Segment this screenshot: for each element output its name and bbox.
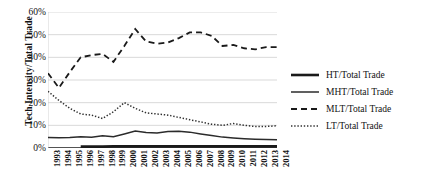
legend-line-swatch-icon <box>290 69 320 81</box>
x-tick-label: 2006 <box>194 150 204 190</box>
series-line-mht <box>48 131 277 140</box>
legend-item-label: HT/Total Trade <box>326 70 385 80</box>
x-axis-tick-labels: 1993199419951996199719981999200020012002… <box>48 150 277 193</box>
x-tick-label: 1998 <box>107 150 117 190</box>
legend-item[interactable]: HT/Total Trade <box>290 66 428 83</box>
x-tick-label: 2004 <box>172 150 182 190</box>
legend-line-swatch-icon <box>290 103 320 115</box>
plot-svg <box>48 12 277 148</box>
y-tick-label: 50% <box>14 30 46 40</box>
y-tick-label: 40% <box>14 52 46 62</box>
series-line-lt <box>48 91 277 126</box>
plot-area <box>48 12 277 148</box>
chart-legend: HT/Total TradeMHT/Total TradeMLT/Total T… <box>290 66 428 134</box>
x-tick-label: 1994 <box>63 150 73 190</box>
x-tick-label: 1993 <box>52 150 62 190</box>
legend-item[interactable]: MHT/Total Trade <box>290 83 428 100</box>
legend-item-label: LT/Total Trade <box>326 121 383 131</box>
x-tick-label: 2013 <box>270 150 280 190</box>
x-tick-label: 2010 <box>237 150 247 190</box>
x-tick-label: 1996 <box>85 150 95 190</box>
legend-item-label: MLT/Total Trade <box>326 104 391 114</box>
x-tick-label: 2001 <box>139 150 149 190</box>
x-tick-label: 2011 <box>248 150 258 190</box>
x-tick-label: 1997 <box>96 150 106 190</box>
x-tick-label: 2012 <box>259 150 269 190</box>
x-tick-label: 2002 <box>150 150 160 190</box>
x-tick-label: 2014 <box>281 150 291 190</box>
x-tick-label: 1995 <box>74 150 84 190</box>
x-tick-label: 1999 <box>117 150 127 190</box>
y-tick-label: 20% <box>14 98 46 108</box>
y-axis-tick-labels: 0%10%20%30%40%50%60% <box>12 0 46 193</box>
legend-item-label: MHT/Total Trade <box>326 87 393 97</box>
legend-item[interactable]: LT/Total Trade <box>290 117 428 134</box>
x-tick-label: 2005 <box>183 150 193 190</box>
legend-line-swatch-icon <box>290 86 320 98</box>
legend-line-swatch-icon <box>290 120 320 132</box>
x-tick-label: 2003 <box>161 150 171 190</box>
x-tick-label: 2008 <box>216 150 226 190</box>
x-tick-label: 2000 <box>128 150 138 190</box>
y-tick-label: 10% <box>14 120 46 130</box>
y-tick-label: 60% <box>14 7 46 17</box>
x-tick-label: 2007 <box>205 150 215 190</box>
chart-figure: Tech Intensity/Total Trade 0%10%20%30%40… <box>0 0 430 193</box>
y-tick-label: 30% <box>14 75 46 85</box>
series-line-mlt <box>48 29 277 88</box>
legend-item[interactable]: MLT/Total Trade <box>290 100 428 117</box>
x-tick-label: 2009 <box>226 150 236 190</box>
y-tick-label: 0% <box>14 143 46 153</box>
